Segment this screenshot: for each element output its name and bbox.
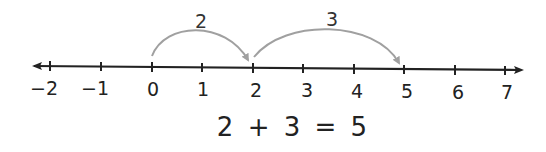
equation: 2 + 3 = 5 (0, 112, 546, 142)
jump-arc-2 (254, 29, 399, 63)
tick-label: −2 (30, 79, 58, 98)
tick-label: 5 (401, 82, 413, 101)
tick-label: −1 (81, 79, 109, 98)
jump-label-1: 2 (195, 12, 207, 31)
jump-arc-1 (152, 30, 248, 60)
tick-label: 0 (147, 80, 159, 99)
tick-label: 1 (197, 80, 209, 99)
tick-label: 7 (501, 83, 513, 102)
jump-label-2: 3 (326, 10, 338, 29)
tick-label: 3 (301, 81, 313, 100)
number-line-axis (32, 62, 524, 74)
tick-label: 2 (250, 81, 262, 100)
tick-label: 6 (452, 83, 464, 102)
tick-label: 4 (351, 82, 363, 101)
